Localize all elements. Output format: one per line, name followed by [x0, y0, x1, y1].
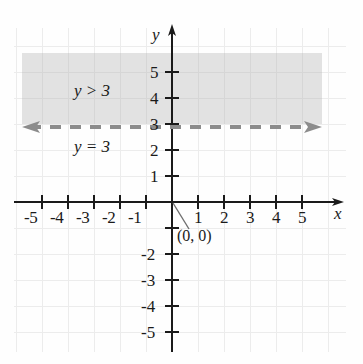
- x-tick-label--3: -3: [76, 209, 89, 226]
- y-tick-label--3: -3: [141, 272, 155, 289]
- x-tick-label--2: -2: [102, 209, 115, 226]
- x-tick-label-4: 4: [272, 209, 281, 226]
- x-tick-label--1: -1: [128, 209, 141, 226]
- inequality-region-label: y > 3: [74, 82, 110, 99]
- y-tick-label--2: -2: [141, 246, 155, 263]
- y-tick-label-2: 2: [150, 142, 159, 159]
- y-tick-label-3: 3: [150, 116, 159, 133]
- boundary-line-label: y = 3: [74, 138, 110, 155]
- origin-point-label: (0, 0): [177, 228, 212, 244]
- y-axis-label: y: [152, 26, 160, 43]
- coordinate-plane-svg: [0, 0, 363, 364]
- x-tick-label--5: -5: [24, 209, 37, 226]
- y-tick-label-5: 5: [150, 64, 159, 81]
- x-axis-label: x: [334, 205, 342, 222]
- x-tick-label-3: 3: [246, 209, 255, 226]
- x-tick-label--4: -4: [50, 209, 63, 226]
- x-tick-label-1: 1: [194, 209, 203, 226]
- graph-figure: y x -5 -4 -3 -2 -1 1 2 3 4 5 5 4 3 2 1 -…: [0, 0, 363, 364]
- origin-leader-line: [173, 203, 189, 229]
- x-tick-label-5: 5: [298, 209, 307, 226]
- y-tick-label--4: -4: [141, 298, 155, 315]
- y-tick-label-4: 4: [150, 90, 159, 107]
- x-tick-label-2: 2: [220, 209, 229, 226]
- y-tick-label-1: 1: [150, 168, 159, 185]
- y-tick-label--5: -5: [141, 324, 155, 341]
